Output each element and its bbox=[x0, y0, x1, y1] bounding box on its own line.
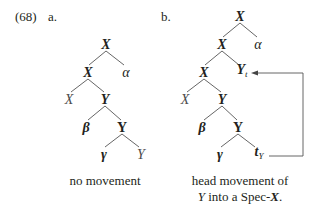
tree-b-x-bar-1: X bbox=[217, 37, 226, 52]
tree-b-x-head: X bbox=[181, 92, 190, 107]
tree-b-gamma: γ bbox=[217, 147, 223, 162]
tree-b-x-bar-2: X bbox=[199, 65, 208, 80]
tree-b-trace: tY bbox=[255, 144, 264, 164]
tree-a-caption: no movement bbox=[69, 173, 140, 189]
caption-line-2: Y into a Spec-X. bbox=[192, 189, 289, 205]
tree-b-moved-y: Yt bbox=[236, 62, 247, 82]
tree-a-y-head: Y bbox=[137, 147, 145, 162]
arrowhead-icon bbox=[251, 71, 258, 76]
tree-a-y-bar: Y bbox=[117, 120, 127, 135]
moved-y-subscript: t bbox=[245, 69, 248, 79]
tree-b-alpha: α bbox=[254, 37, 261, 52]
tree-a-root-x: X bbox=[101, 37, 110, 52]
tree-a-beta: β bbox=[82, 120, 89, 135]
caption-line-1: head movement of bbox=[192, 173, 289, 189]
tree-b-caption: head movement of Y into a Spec-X. bbox=[192, 173, 289, 205]
tree-a-gamma: γ bbox=[101, 147, 107, 162]
tree-a-alpha: α bbox=[122, 65, 129, 80]
trace-subscript: Y bbox=[258, 151, 263, 161]
tree-b-root-x: X bbox=[235, 9, 244, 24]
tree-a-x-head: X bbox=[65, 92, 74, 107]
tree-b-yp: Y bbox=[218, 92, 227, 107]
tree-a-yp: Y bbox=[101, 92, 110, 107]
caption-period: . bbox=[279, 189, 282, 204]
caption-mid: into a Spec- bbox=[205, 189, 270, 204]
tree-b-beta: β bbox=[198, 120, 205, 135]
tree-a-x-bar: X bbox=[83, 65, 92, 80]
tree-b-y-bar: Y bbox=[233, 120, 243, 135]
moved-y-label: Y bbox=[236, 62, 245, 77]
